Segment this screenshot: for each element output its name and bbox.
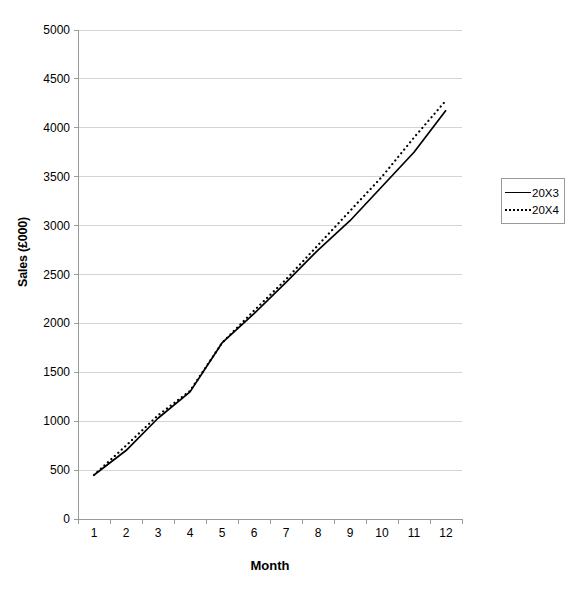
legend-item: 20X3 [502, 184, 564, 201]
x-axis-title: Month [78, 558, 462, 573]
x-axis-tick-label: 9 [335, 527, 365, 539]
plot-area [0, 0, 573, 607]
legend-line-swatch-dotted-icon [505, 205, 531, 215]
x-axis-tick-label: 8 [303, 527, 333, 539]
x-axis-tick-label: 5 [207, 527, 237, 539]
x-axis-tick-labels: 123456789101112 [78, 527, 462, 547]
x-axis-tick-label: 7 [271, 527, 301, 539]
x-axis-tick-label: 2 [111, 527, 141, 539]
legend-item-label: 20X3 [531, 187, 559, 199]
chart-legend: 20X3 20X4 [501, 178, 565, 224]
x-axis-tick-label: 3 [143, 527, 173, 539]
x-axis-tick-label: 1 [79, 527, 109, 539]
legend-item-label: 20X4 [531, 204, 559, 216]
legend-item: 20X4 [502, 201, 564, 218]
legend-line-swatch-solid-icon [505, 188, 531, 198]
line-chart: Sales (£000) 050010001500200025003000350… [0, 0, 573, 607]
x-axis-tick-label: 11 [399, 527, 429, 539]
x-axis-tick-label: 12 [431, 527, 461, 539]
x-axis-tick-label: 4 [175, 527, 205, 539]
series-line-20X3 [94, 110, 446, 475]
series-line-20X4 [94, 100, 446, 475]
x-axis-tick-label: 10 [367, 527, 397, 539]
x-axis-tick-label: 6 [239, 527, 269, 539]
